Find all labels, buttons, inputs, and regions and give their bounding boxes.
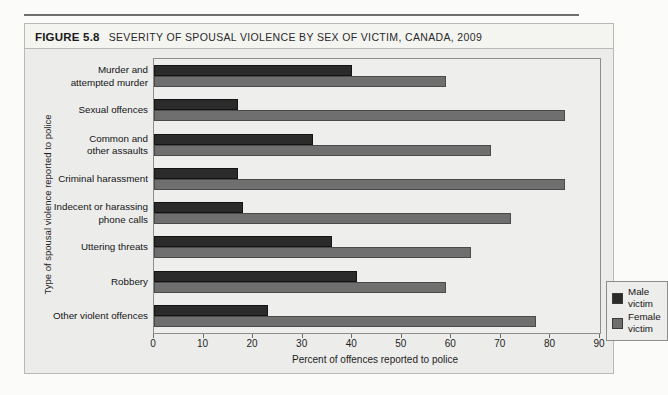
category-label: Other violent offences [53,310,148,323]
x-axis-tick-label: 50 [395,338,406,349]
legend-label-female: Female victim [628,311,661,335]
bar-female [154,76,446,87]
plot-area: Murder and attempted murder Sexual offen… [153,58,601,334]
bar-female [154,282,446,293]
category-label: Uttering threats [81,241,148,254]
y-axis-title: Type of spousal violence reported to pol… [42,85,53,325]
bar-male [154,202,243,213]
chart-panel: Type of spousal violence reported to pol… [24,48,614,374]
legend-label-male: Male victim [628,286,661,310]
title-top-rule [24,14,579,16]
category-label: Murder and attempted murder [71,64,148,89]
x-axis-title: Percent of offences reported to police [155,354,595,365]
bar-male [154,305,268,316]
bar-group-criminal-harassment: Criminal harassment [154,166,600,192]
bar-female [154,110,565,121]
bar-female [154,179,565,190]
bar-female [154,213,511,224]
x-axis: 0102030405060708090 [153,334,601,354]
bar-female [154,316,536,327]
chart-legend: Male victim Female victim [606,281,668,341]
bar-female [154,145,491,156]
category-label: Common and other assaults [87,132,148,157]
x-axis-tick-label: 0 [150,338,156,349]
bar-male [154,134,313,145]
bar-group-common-assaults: Common and other assaults [154,132,600,158]
bar-male [154,65,352,76]
legend-item-female: Female victim [612,311,661,335]
legend-swatch-female-icon [612,318,623,329]
category-label: Robbery [111,275,148,288]
x-axis-tick-label: 20 [247,338,258,349]
figure-title: SEVERITY OF SPOUSAL VIOLENCE BY SEX OF V… [109,31,482,43]
x-axis-tick-label: 30 [296,338,307,349]
bar-group-sexual-offences: Sexual offences [154,97,600,123]
bar-male [154,99,238,110]
bar-group-uttering-threats: Uttering threats [154,234,600,260]
legend-swatch-male-icon [612,293,623,304]
figure-title-bar: FIGURE 5.8 SEVERITY OF SPOUSAL VIOLENCE … [24,23,614,49]
bar-male [154,271,357,282]
bar-female [154,247,471,258]
legend-item-male: Male victim [612,286,661,310]
x-axis-tick-label: 70 [494,338,505,349]
bar-male [154,168,238,179]
bar-rows: Murder and attempted murder Sexual offen… [154,59,600,333]
x-axis-tick-label: 10 [197,338,208,349]
x-axis-tick-label: 40 [346,338,357,349]
x-axis-tick-label: 60 [445,338,456,349]
category-label: Indecent or harassing phone calls [54,201,148,226]
bar-group-robbery: Robbery [154,269,600,295]
bar-group-murder: Murder and attempted murder [154,63,600,89]
bar-group-phone-calls: Indecent or harassing phone calls [154,200,600,226]
category-label: Criminal harassment [58,173,148,186]
x-axis-tick-label: 80 [544,338,555,349]
bar-male [154,236,332,247]
bar-group-other-violent: Other violent offences [154,303,600,329]
figure-number: FIGURE 5.8 [35,31,100,43]
x-axis-tick-label: 90 [593,338,604,349]
category-label: Sexual offences [78,104,148,117]
figure-container: FIGURE 5.8 SEVERITY OF SPOUSAL VIOLENCE … [24,14,616,376]
